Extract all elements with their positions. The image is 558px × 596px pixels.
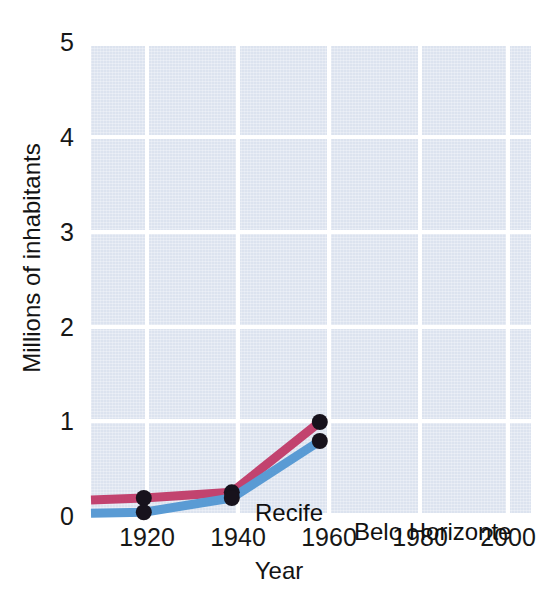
y-tick-label-4: 4 — [60, 125, 74, 150]
y-tick-label-0: 0 — [60, 504, 74, 529]
data-point-marker — [224, 490, 240, 506]
y-tick-label-2: 2 — [60, 315, 74, 340]
x-tick-label-1960: 1960 — [301, 524, 357, 550]
y-tick-label-5: 5 — [60, 30, 74, 55]
series-label-belo-horizonte: Belo Horizonte — [354, 519, 511, 545]
population-line-chart: Millions of inhabitants 5 4 3 2 1 0 1920… — [0, 0, 558, 596]
data-point-marker — [136, 490, 152, 506]
y-axis-title: Millions of inhabitants — [19, 58, 45, 458]
series-label-recife: Recife — [255, 500, 323, 526]
y-tick-label-1: 1 — [60, 409, 74, 434]
y-tick-label-3: 3 — [60, 220, 74, 245]
plot-area: Recife Belo Horizonte — [91, 42, 531, 517]
x-tick-label-1920: 1920 — [119, 524, 175, 550]
data-point-marker — [312, 433, 328, 449]
data-point-marker — [136, 504, 152, 520]
series-overlay — [91, 42, 531, 517]
x-axis-title: Year — [0, 558, 558, 584]
x-tick-label-1940: 1940 — [210, 524, 266, 550]
data-point-marker — [312, 414, 328, 430]
